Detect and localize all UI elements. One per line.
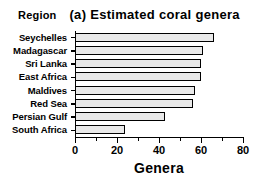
bar-row: [75, 124, 243, 137]
x-axis-title: Genera: [75, 160, 243, 176]
y-tick-mark: [71, 37, 75, 38]
y-tick-label: Sri Lanka: [25, 59, 67, 69]
bar: [75, 112, 165, 121]
bar-series: [75, 31, 243, 137]
y-axis-line: [75, 31, 76, 137]
y-tick-label: Maldives: [28, 86, 67, 96]
y-tick-mark: [71, 130, 75, 131]
bar: [75, 33, 214, 42]
x-tick-minor: [96, 138, 97, 141]
bar-row: [75, 44, 243, 57]
y-tick-mark: [71, 90, 75, 91]
bar: [75, 99, 193, 108]
x-tick-major: [75, 138, 76, 143]
y-tick-label: East Africa: [19, 72, 67, 82]
x-tick-major: [159, 138, 160, 143]
x-tick-label: 40: [144, 144, 174, 156]
bar: [75, 59, 201, 68]
x-tick-major: [201, 138, 202, 143]
bar: [75, 86, 195, 95]
bar: [75, 72, 201, 81]
bar-row: [75, 84, 243, 97]
y-axis-title: Region: [18, 9, 56, 21]
bar-row: [75, 97, 243, 110]
chart-figure: Region (a) Estimated coral genera Seyche…: [0, 0, 269, 187]
y-tick-label: Madagascar: [13, 46, 67, 56]
chart-title: (a) Estimated coral genera: [69, 7, 239, 22]
y-tick-mark: [71, 77, 75, 78]
x-tick-major: [117, 138, 118, 143]
bar-row: [75, 31, 243, 44]
bar-row: [75, 58, 243, 71]
bar: [75, 46, 203, 55]
bar: [75, 125, 125, 134]
y-tick-mark: [71, 63, 75, 64]
x-tick-label: 0: [60, 144, 90, 156]
x-tick-major: [243, 138, 244, 143]
title-row: Region (a) Estimated coral genera: [0, 7, 269, 27]
y-tick-mark: [71, 116, 75, 117]
plot-area: [75, 31, 243, 137]
x-tick-label: 60: [186, 144, 216, 156]
y-tick-label: South Africa: [12, 125, 67, 135]
x-tick-label: 20: [102, 144, 132, 156]
y-tick-label: Seychelles: [19, 33, 67, 43]
y-tick-label: Persian Gulf: [12, 112, 67, 122]
x-tick-minor: [180, 138, 181, 141]
y-tick-mark: [71, 50, 75, 51]
y-tick-mark: [71, 103, 75, 104]
x-tick-minor: [138, 138, 139, 141]
y-tick-label: Red Sea: [30, 99, 67, 109]
x-tick-label: 80: [228, 144, 258, 156]
bar-row: [75, 71, 243, 84]
bar-row: [75, 111, 243, 124]
x-tick-minor: [222, 138, 223, 141]
